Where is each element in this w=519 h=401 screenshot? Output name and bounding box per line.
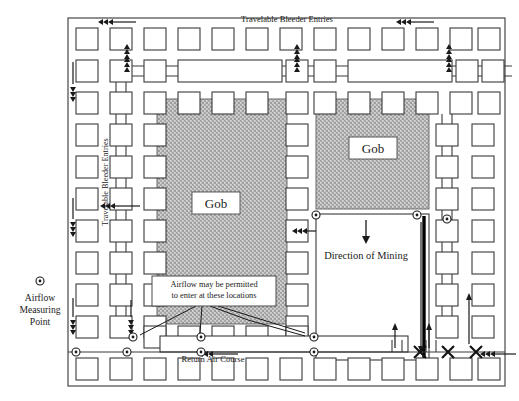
pillar-column-right-outer	[472, 124, 494, 338]
pillar-column-mid-right	[436, 124, 458, 338]
legend-line-1: Airflow	[25, 292, 55, 303]
measuring-point-bottom-far-left	[72, 348, 80, 356]
label-direction-of-mining: Direction of Mining	[324, 250, 408, 261]
label-travelable-bleeder-entries-left: Travelable Bleeder Entries	[101, 138, 110, 225]
measuring-point-right-outer	[443, 215, 451, 223]
callout-airflow-permitted: Airflow may be permitted to enter at the…	[152, 276, 276, 306]
callout-line-1: Airflow may be permitted	[170, 280, 258, 289]
diagram-canvas: Airflow may be permitted to enter at the…	[0, 0, 519, 401]
pillar-column-left-inner	[110, 124, 132, 338]
measuring-point-panel-top-left	[312, 211, 320, 219]
label-travelable-bleeder-entries-top: Travelable Bleeder Entries	[241, 14, 333, 24]
measuring-point-panel-bottom-left	[310, 333, 318, 341]
mine-ventilation-diagram: Airflow may be permitted to enter at the…	[0, 0, 519, 401]
measuring-point-panel-top-right	[413, 211, 421, 219]
legend-line-2: Measuring	[19, 304, 60, 315]
measuring-point-bottom-left-b	[123, 348, 131, 356]
measuring-point-legend-symbol	[36, 277, 44, 285]
pillar-column-left-outer	[76, 124, 98, 338]
callout-line-2: to enter at these locations	[171, 291, 256, 300]
label-return-air-course: Return Air Course	[181, 354, 244, 364]
gob-label-right-text: Gob	[362, 141, 384, 156]
measuring-point-gob-left-lower-2	[197, 333, 205, 341]
gob-label-right: Gob	[349, 137, 397, 159]
legend-line-3: Point	[30, 316, 51, 327]
gob-label-left-text: Gob	[205, 196, 227, 211]
gob-label-left: Gob	[192, 192, 240, 214]
measuring-point-panel-bottom-left-2	[310, 348, 318, 356]
measuring-point-gob-left-lower	[129, 333, 137, 341]
